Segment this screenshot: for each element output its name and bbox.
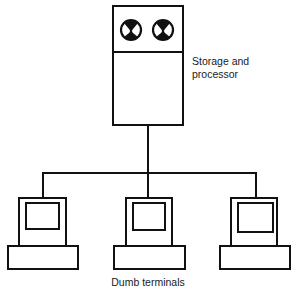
terminal-screen [133, 203, 165, 230]
terminal-middle [114, 198, 185, 269]
connection-lines [43, 125, 256, 198]
terminal-left [8, 198, 78, 269]
terminal-keyboard-base [8, 246, 78, 269]
tape-reel-icon [153, 20, 173, 40]
terminal-keyboard-base [114, 246, 185, 269]
terminal-keyboard-base [220, 246, 290, 269]
host-cabinet [113, 6, 183, 125]
host-label-line2: processor [192, 68, 292, 81]
terminal-screen [26, 203, 59, 229]
terminal-screen [238, 203, 273, 232]
terminals-label: Dumb terminals [98, 276, 198, 289]
host-label-line1: Storage and [192, 55, 292, 68]
network-diagram [0, 0, 300, 293]
tape-reel-icon [121, 20, 141, 40]
terminal-right [220, 198, 290, 269]
host-label: Storage and processor [192, 55, 292, 80]
